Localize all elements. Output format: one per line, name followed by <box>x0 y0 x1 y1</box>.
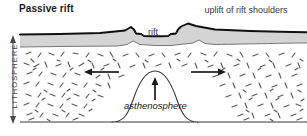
rift-label: rift <box>148 28 158 37</box>
uplift-of-rift-shoulders-label: uplift of rift shoulders <box>196 6 296 15</box>
crust-layer <box>20 24 307 48</box>
page-title: Passive rift <box>19 4 74 15</box>
asthenosphere-label: asthenosphere <box>124 101 187 111</box>
cross-section-svg <box>0 0 307 136</box>
lithosphere-label: LITHOSPHERE <box>11 38 19 114</box>
passive-rift-diagram: Passive rift rift uplift of rift shoulde… <box>0 0 307 136</box>
